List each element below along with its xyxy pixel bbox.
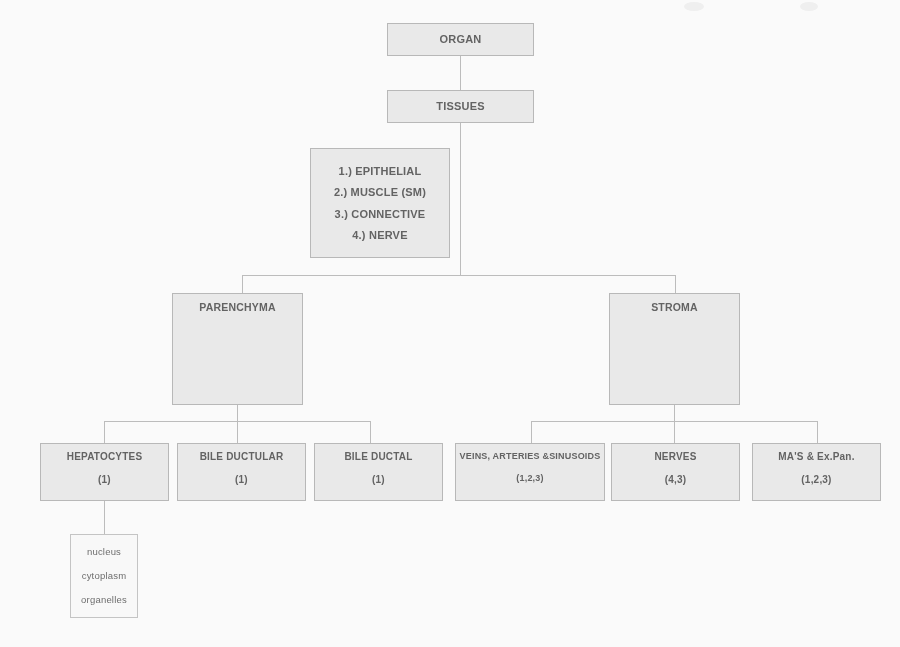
node-bile-ductal-label: BILE DUCTAL xyxy=(344,451,412,464)
node-tissue-types: 1.) EPITHELIAL 2.) MUSCLE (SM) 3.) CONNE… xyxy=(310,148,450,258)
node-mas-expan-label: MA'S & Ex.Pan. xyxy=(778,451,854,464)
node-vessels-code: (1,2,3) xyxy=(516,473,543,485)
connector-to-nerves xyxy=(674,421,675,443)
node-stroma-label: STROMA xyxy=(651,301,698,314)
connector-tissues-trunk xyxy=(460,123,461,275)
node-hepatocytes-label: HEPATOCYTES xyxy=(67,451,143,464)
node-stroma: STROMA xyxy=(609,293,740,405)
node-bile-ductal: BILE DUCTAL (1) xyxy=(314,443,443,501)
connector-to-parenchyma xyxy=(242,275,243,293)
node-nerves-code: (4,3) xyxy=(665,474,687,487)
node-tissues-label: TISSUES xyxy=(436,99,484,113)
node-bile-ductular-code: (1) xyxy=(235,474,248,487)
connector-to-stroma xyxy=(675,275,676,293)
cell-part-item: cytoplasm xyxy=(82,570,127,582)
connector-to-hepatocytes xyxy=(104,421,105,443)
node-cell-parts: nucleus cytoplasm organelles xyxy=(70,534,138,618)
node-parenchyma: PARENCHYMA xyxy=(172,293,303,405)
node-nerves-label: NERVES xyxy=(654,451,696,464)
node-bile-ductular: BILE DUCTULAR (1) xyxy=(177,443,306,501)
node-bile-ductal-code: (1) xyxy=(372,474,385,487)
node-mas-expan-code: (1,2,3) xyxy=(801,474,831,487)
connector-stroma-stem xyxy=(674,405,675,421)
tissue-type-item: 4.) NERVE xyxy=(352,228,407,242)
node-parenchyma-label: PARENCHYMA xyxy=(199,301,275,314)
cell-part-item: nucleus xyxy=(87,546,121,558)
connector-to-vessels xyxy=(531,421,532,443)
scan-artifact xyxy=(684,2,704,11)
node-bile-ductular-label: BILE DUCTULAR xyxy=(200,451,284,464)
cell-part-item: organelles xyxy=(81,594,127,606)
scan-artifact xyxy=(800,2,818,11)
connector-to-mas-expan xyxy=(817,421,818,443)
tissue-type-item: 2.) MUSCLE (SM) xyxy=(334,185,426,199)
node-mas-expan: MA'S & Ex.Pan. (1,2,3) xyxy=(752,443,881,501)
node-tissues: TISSUES xyxy=(387,90,534,123)
tissue-type-item: 3.) CONNECTIVE xyxy=(335,207,426,221)
diagram-canvas: ORGAN TISSUES 1.) EPITHELIAL 2.) MUSCLE … xyxy=(0,0,900,647)
connector-to-bile-ductal xyxy=(370,421,371,443)
connector-hepatocytes-to-cell-parts xyxy=(104,501,105,534)
node-hepatocytes-code: (1) xyxy=(98,474,111,487)
tissue-type-item: 1.) EPITHELIAL xyxy=(339,164,422,178)
node-organ: ORGAN xyxy=(387,23,534,56)
node-vessels: VEINS, ARTERIES &SINUSOIDS (1,2,3) xyxy=(455,443,605,501)
node-nerves: NERVES (4,3) xyxy=(611,443,740,501)
connector-parenchyma-stem xyxy=(237,405,238,421)
connector-to-bile-ductular xyxy=(237,421,238,443)
node-hepatocytes: HEPATOCYTES (1) xyxy=(40,443,169,501)
connector-split-bar-main xyxy=(242,275,676,276)
node-vessels-label: VEINS, ARTERIES &SINUSOIDS xyxy=(460,451,601,463)
connector-organ-to-tissues xyxy=(460,56,461,90)
node-organ-label: ORGAN xyxy=(440,32,482,46)
